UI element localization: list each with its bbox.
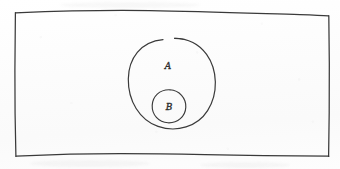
universal-set-rectangle: [15, 10, 329, 156]
rectangle-top-edge: [16, 10, 329, 16]
rectangle-left-edge: [15, 13, 16, 157]
sketch-layer: A B: [0, 0, 340, 169]
set-a-circle: [128, 38, 215, 129]
rectangle-bottom-edge: [16, 154, 329, 157]
diagram-canvas: A B: [0, 0, 340, 169]
set-b-label: B: [165, 102, 173, 112]
set-a-label: A: [164, 61, 172, 71]
set-a-outline: [128, 38, 215, 129]
rectangle-right-edge: [329, 16, 330, 157]
